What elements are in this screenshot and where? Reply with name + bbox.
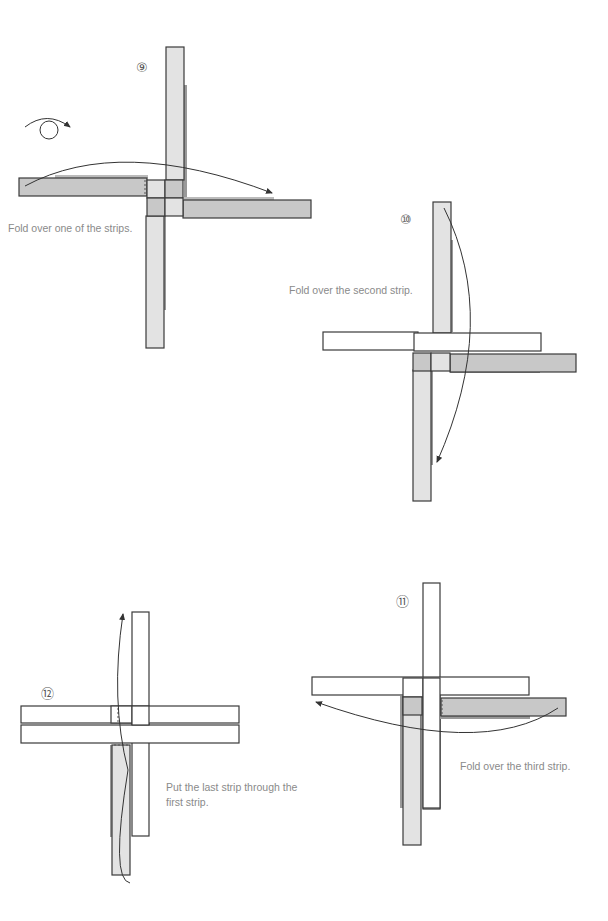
step-12-caption-line1: Put the last strip through the bbox=[166, 780, 297, 795]
step-12-caption: Put the last strip through the first str… bbox=[166, 780, 297, 810]
step-12-number: ⑫ bbox=[41, 683, 54, 702]
step-10-number: ⑩ bbox=[400, 212, 412, 227]
origami-diagram bbox=[0, 0, 608, 921]
step-11-number: ⑪ bbox=[396, 591, 409, 610]
step-9-caption: Fold over one of the strips. bbox=[8, 221, 132, 236]
step-9-diagram bbox=[19, 47, 311, 348]
step-11-diagram bbox=[312, 583, 566, 845]
step-10-caption: Fold over the second strip. bbox=[289, 283, 413, 298]
step-10-diagram bbox=[323, 202, 576, 501]
step-12-diagram bbox=[21, 612, 239, 883]
turn-over-icon bbox=[25, 119, 70, 140]
step-12-caption-line2: first strip. bbox=[166, 795, 297, 810]
step-9-number: ⑨ bbox=[136, 60, 148, 75]
step-11-caption: Fold over the third strip. bbox=[460, 759, 570, 774]
